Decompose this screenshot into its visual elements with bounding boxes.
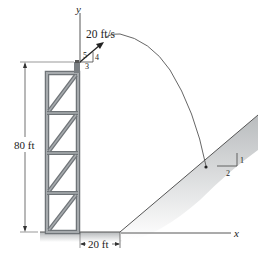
velocity-label: 20 ft/s (86, 28, 116, 40)
slope-rise-label: 4 (95, 53, 99, 62)
landing-point (204, 165, 207, 168)
slope-hyp-label: 5 (83, 51, 87, 60)
incline-run-label: 2 (226, 169, 230, 178)
tower-frame (47, 60, 80, 232)
projectile-diagram: x y (0, 0, 273, 263)
x-axis-label: x (233, 227, 239, 239)
height-label: 80 ft (14, 139, 34, 151)
slope-run-label: 3 (85, 62, 89, 71)
incline-rise-label: 1 (240, 156, 244, 165)
y-axis-label: y (75, 3, 81, 15)
launcher-post (74, 62, 80, 73)
y-axis: y (75, 3, 81, 63)
offset-label: 20 ft (88, 238, 108, 250)
trajectory-path (106, 34, 206, 166)
